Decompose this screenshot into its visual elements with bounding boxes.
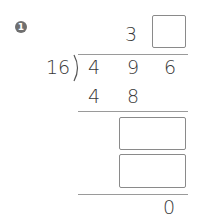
quotient-digit-tens: 3 [124, 24, 138, 44]
quotient-ones-answer-box[interactable] [152, 15, 186, 48]
dividend-digit-ones: 6 [163, 57, 177, 77]
remainder: 0 [162, 197, 176, 216]
dividend-digit-tens: 9 [126, 57, 140, 77]
divisor: 16 [46, 57, 70, 77]
product-digit-hundreds: 4 [87, 86, 101, 106]
problem-number-badge: 1 [15, 21, 27, 33]
second-product-answer-box[interactable] [119, 154, 186, 188]
subtraction-line-2 [78, 194, 188, 195]
subtraction-line-1 [78, 111, 188, 112]
dividend-digit-hundreds: 4 [87, 57, 101, 77]
product-digit-tens: 8 [126, 86, 140, 106]
difference-answer-box[interactable] [119, 117, 186, 150]
division-bar [78, 54, 188, 55]
division-bracket-icon [72, 54, 82, 82]
